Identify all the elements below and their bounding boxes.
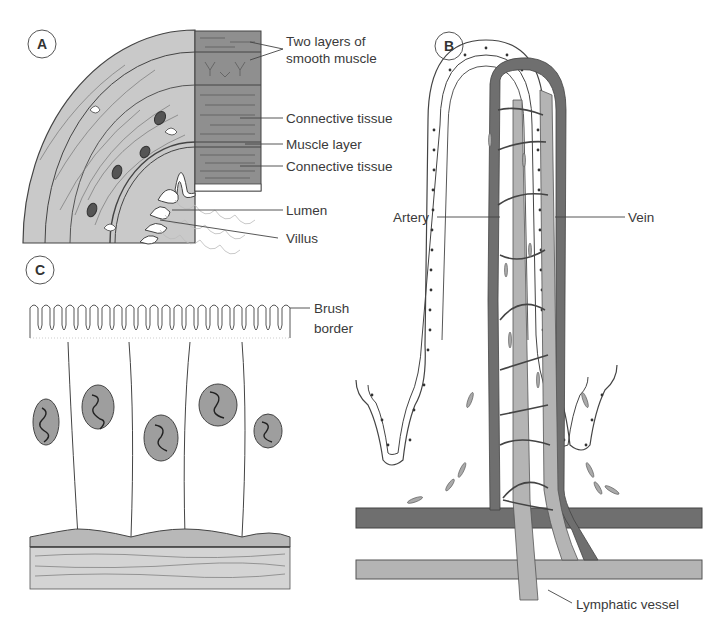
label-muscle-layer: Muscle layer xyxy=(286,137,362,152)
wall-layers-block xyxy=(195,31,261,191)
label-brush-border-line1: Brush xyxy=(314,301,349,316)
label-two-layers-line1: Two layers of xyxy=(286,34,366,49)
basement-membrane xyxy=(30,529,290,589)
panel-b-letter: B xyxy=(444,38,454,54)
label-artery: Artery xyxy=(393,210,429,225)
brush-border-microvilli xyxy=(30,305,290,338)
panel-a-badge: A xyxy=(28,30,56,58)
label-villus: Villus xyxy=(286,231,318,246)
villus-epithelium xyxy=(356,40,617,465)
panel-c-letter: C xyxy=(35,262,45,278)
panel-b: B xyxy=(356,32,702,612)
panel-a: A xyxy=(23,30,393,254)
label-vein: Vein xyxy=(628,210,654,225)
panel-a-letter: A xyxy=(37,36,47,52)
panel-c: C xyxy=(26,256,354,589)
figure-canvas: A xyxy=(0,0,726,631)
label-connective-tissue-2: Connective tissue xyxy=(286,159,393,174)
label-connective-tissue-1: Connective tissue xyxy=(286,111,393,126)
panel-c-badge: C xyxy=(26,256,54,284)
label-lymphatic-vessel: Lymphatic vessel xyxy=(576,597,679,612)
label-brush-border-line2: border xyxy=(314,321,354,336)
label-lumen: Lumen xyxy=(286,203,327,218)
label-two-layers-line2: smooth muscle xyxy=(286,51,377,66)
epithelial-cell-nuclei xyxy=(371,47,604,447)
